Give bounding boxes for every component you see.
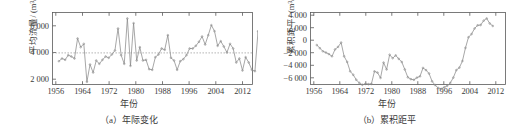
panel-a-xtick-labels: 1956 1964 1972 1980 1988 1996 2004 2012 [47,87,250,96]
xtick-label-b-3: 1980 [383,87,400,96]
xtick-label-b-0: 1956 [305,87,322,96]
ytick-label-a-2: 2 000 [30,75,49,84]
xtick-label-b-6: 2004 [461,87,479,96]
xtick-label-b-7: 2012 [487,87,504,96]
ytick-label-b-2: 0 [303,36,307,45]
xtick-label-a-6: 2004 [207,87,225,96]
panel-a-data [53,18,259,83]
panel-b: 4 000 2 000 0 −2 000 −4 000 −6 000 1956 … [258,0,516,135]
panel-b-xtick-labels: 1956 1964 1972 1980 1988 1996 2004 2012 [305,87,504,96]
panel-b-axes [311,13,506,85]
xtick-label-a-4: 1988 [154,87,171,96]
panel-a-ylabel: 平均流量/ (m³/s) [26,0,40,60]
xtick-label-b-1: 1964 [331,87,349,96]
panel-b-ylabel: 累积距平/ (m³/s) [284,0,298,60]
panel-b-xlabel: 年份 [258,97,516,110]
series-markers-b [316,18,494,90]
series-line-b [317,18,493,88]
xtick-label-a-3: 1980 [127,87,144,96]
panel-a-xlabel: 年份 [0,97,258,110]
xtick-label-b-4: 1988 [409,87,426,96]
plot-frame-a [53,13,253,85]
panel-b-caption: （b）累积距平 [258,113,516,126]
figure-container: 6 000 4 000 2 000 1956 1964 1972 1980 19… [0,0,516,135]
series-line-a [59,19,258,82]
ytick-label-b-4: −4 000 [283,61,307,70]
plot-frame-b [311,13,506,85]
panel-a: 6 000 4 000 2 000 1956 1964 1972 1980 19… [0,0,258,135]
xtick-label-a-1: 1964 [74,87,92,96]
xtick-label-a-7: 2012 [234,87,251,96]
panel-b-data [316,18,494,90]
ytick-label-b-5: −6 000 [283,74,307,83]
panel-a-caption: （a）年际变化 [0,113,258,126]
xtick-label-b-2: 1972 [357,87,374,96]
xtick-label-a-5: 1996 [181,87,198,96]
xtick-label-a-2: 1972 [101,87,118,96]
panel-a-axes [53,13,253,85]
xtick-label-a-0: 1956 [47,87,64,96]
